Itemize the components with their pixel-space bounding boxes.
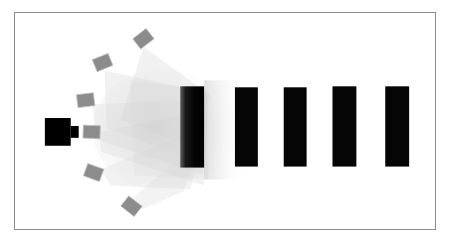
sensor-element[interactable] xyxy=(76,93,94,108)
light-source-nozzle xyxy=(71,126,79,138)
light-source-body xyxy=(45,118,71,146)
diagram-scene xyxy=(15,13,435,229)
diagram-frame xyxy=(14,12,436,230)
diagram-canvas xyxy=(0,0,453,241)
sensor-element[interactable] xyxy=(83,164,103,182)
sensor-element[interactable] xyxy=(92,53,113,71)
bar-3[interactable] xyxy=(284,87,307,166)
bar-5[interactable] xyxy=(385,86,409,166)
light-source xyxy=(45,118,79,146)
bar-1[interactable] xyxy=(180,86,204,167)
sensor-element[interactable] xyxy=(133,29,154,50)
sensor-element[interactable] xyxy=(83,125,100,138)
bar-4[interactable] xyxy=(332,86,356,166)
bar-2[interactable] xyxy=(235,87,258,166)
